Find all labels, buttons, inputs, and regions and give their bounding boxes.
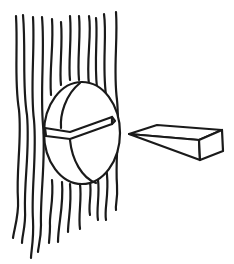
wedge-block [129,125,223,160]
illustration-canvas: Line drawing of wavy vertical strands wi… [0,0,234,264]
strand-2 [22,15,28,243]
line-drawing [0,0,234,264]
strand-3 [31,17,35,258]
slotted-disc [44,82,120,184]
strand-1 [13,16,20,238]
